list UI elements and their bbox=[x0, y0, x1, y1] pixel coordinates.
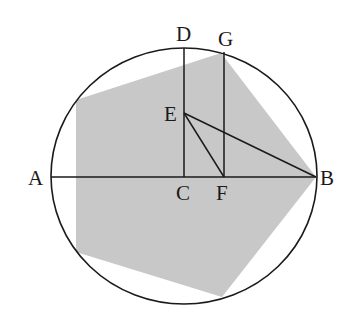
pentagon-shape bbox=[76, 53, 316, 297]
geometry-diagram: A B C D E F G bbox=[0, 0, 356, 320]
label-b: B bbox=[320, 166, 334, 190]
label-g: G bbox=[218, 27, 233, 51]
label-e: E bbox=[164, 102, 177, 126]
label-d: D bbox=[176, 22, 191, 46]
label-f: F bbox=[216, 181, 228, 205]
label-c: C bbox=[176, 181, 190, 205]
label-a: A bbox=[28, 166, 44, 190]
